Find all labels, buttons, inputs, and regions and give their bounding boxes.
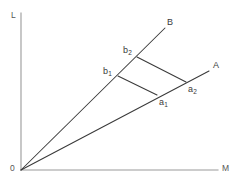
diagram-svg [0, 0, 240, 179]
axis-label-M: M [222, 164, 229, 173]
ray-B-line [21, 28, 165, 170]
diagram-canvas: L M 0 B A b1 b2 a1 a2 [0, 0, 240, 179]
axis-label-L: L [11, 11, 16, 20]
point-label-b1: b1 [103, 67, 112, 76]
point-label-b2: b2 [123, 46, 132, 55]
origin-label: 0 [10, 164, 15, 173]
rays-group [21, 28, 209, 170]
ray-label-A: A [213, 61, 219, 70]
segment-b1-a1-line [118, 76, 157, 95]
ray-A-line [21, 71, 209, 170]
connectors-group [118, 57, 186, 95]
point-label-a2: a2 [188, 85, 197, 94]
ray-label-B: B [167, 18, 173, 27]
segment-b2-a2-line [137, 57, 186, 82]
point-label-a1: a1 [159, 98, 168, 107]
